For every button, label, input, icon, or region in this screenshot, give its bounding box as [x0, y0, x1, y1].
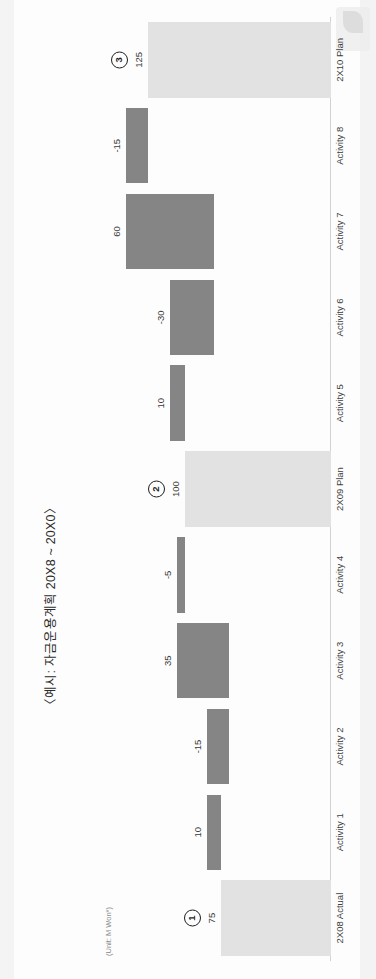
- delta-bar[interactable]: [177, 623, 228, 699]
- waterfall-chart-plot-area: 75110-1535-5100210-3060-151253: [126, 17, 331, 961]
- bar-value-label: 10: [192, 827, 203, 838]
- delta-bar[interactable]: [126, 194, 214, 270]
- total-bar[interactable]: [221, 880, 331, 956]
- scan-artifact-top: [0, 0, 14, 979]
- category-axis-label: 2X09 Plan: [334, 446, 345, 532]
- slide-canvas: 〈예시: 자금운용계획 20X8 ~ 20X0〉 (Unit: M Won*) …: [0, 0, 376, 979]
- category-axis-label: Activity 3: [334, 618, 345, 704]
- bar-value-label: 60: [111, 226, 122, 237]
- step-number-badge: 1: [184, 910, 201, 927]
- step-number-badge: 2: [148, 481, 165, 498]
- delta-bar[interactable]: [170, 280, 214, 356]
- category-axis-label: Activity 4: [334, 532, 345, 618]
- delta-bar[interactable]: [126, 108, 148, 184]
- bar-value-label: -15: [192, 740, 203, 754]
- waterfall-bar-slot: -15: [126, 103, 331, 189]
- bar-value-label: -30: [155, 311, 166, 325]
- category-axis-label: 2X10 Plan: [334, 17, 345, 103]
- waterfall-bar-slot: -15: [126, 704, 331, 790]
- waterfall-bar-slot: 751: [126, 875, 331, 961]
- category-axis: 2X08 ActualActivity 1Activity 2Activity …: [334, 17, 354, 961]
- page-title: 〈예시: 자금운용계획 20X8 ~ 20X0〉: [40, 501, 59, 711]
- category-axis-label: Activity 2: [334, 704, 345, 790]
- category-axis-label: Activity 6: [334, 274, 345, 360]
- category-axis-label: Activity 1: [334, 789, 345, 875]
- waterfall-bar-slot: 10: [126, 360, 331, 446]
- scan-artifact-bottom: [360, 0, 376, 979]
- waterfall-bar-slot: 1253: [126, 17, 331, 103]
- waterfall-bar-slot: -5: [126, 532, 331, 618]
- bar-value-label: -15: [111, 139, 122, 153]
- bar-value-label: 75: [206, 913, 217, 924]
- bar-value-label: -5: [162, 571, 173, 579]
- total-bar[interactable]: [148, 22, 331, 98]
- bar-value-label: 100: [170, 481, 181, 497]
- step-number-badge: 3: [111, 51, 128, 68]
- waterfall-bar-slot: 10: [126, 789, 331, 875]
- delta-bar[interactable]: [207, 709, 229, 785]
- category-axis-label: Activity 5: [334, 360, 345, 446]
- bar-value-label: 10: [155, 398, 166, 409]
- waterfall-bar-slot: 1002: [126, 446, 331, 532]
- category-axis-label: Activity 8: [334, 103, 345, 189]
- delta-bar[interactable]: [170, 365, 185, 441]
- waterfall-bar-slot: 60: [126, 189, 331, 275]
- bar-value-label: 35: [162, 655, 173, 666]
- delta-bar[interactable]: [207, 795, 222, 871]
- bar-value-label: 125: [133, 52, 144, 68]
- slide-rotation-wrapper: 〈예시: 자금운용계획 20X8 ~ 20X0〉 (Unit: M Won*) …: [0, 0, 376, 979]
- unit-note: (Unit: M Won*): [104, 907, 113, 956]
- waterfall-bar-slot: 35: [126, 618, 331, 704]
- delta-bar[interactable]: [177, 537, 184, 613]
- category-axis-label: Activity 7: [334, 189, 345, 275]
- category-axis-label: 2X08 Actual: [334, 875, 345, 961]
- total-bar[interactable]: [185, 451, 331, 527]
- waterfall-bar-slot: -30: [126, 274, 331, 360]
